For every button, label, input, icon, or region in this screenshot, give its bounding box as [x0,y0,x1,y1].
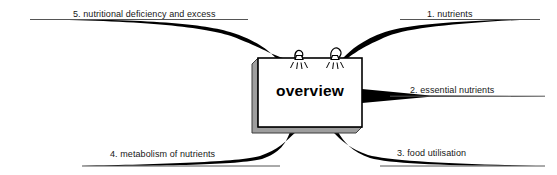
branch-upper-right[interactable] [343,19,540,58]
branch-label-nutrients[interactable]: 1. nutrients [427,9,473,20]
mindmap-canvas: overview 5. nutritional deficiency and e… [0,0,557,175]
center-node-face [258,58,362,127]
branch-label-metabolism-of-nutrients[interactable]: 4. metabolism of nutrients [110,149,215,160]
branch-upper-left[interactable] [30,19,283,58]
branch-stroke-1 [343,19,540,58]
branch-label-essential-nutrients[interactable]: 2. essential nutrients [410,85,494,96]
branch-label-nutritional-deficiency-and-excess[interactable]: 5. nutritional deficiency and excess [73,9,215,20]
branch-label-food-utilisation[interactable]: 3. food utilisation [397,148,466,159]
branch-stroke-5 [30,19,283,58]
center-node[interactable] [252,58,362,133]
